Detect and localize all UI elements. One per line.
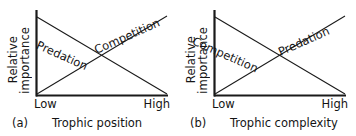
panel-a-x-tick-high: High — [144, 98, 170, 111]
panel-b: Relative importance Competition Predatio… — [178, 0, 356, 136]
panel-a-letter: (a) — [12, 116, 28, 130]
panel-a: Relative importance Predation Competitio… — [0, 0, 178, 136]
figure-two-panel-line-chart: Relative importance Predation Competitio… — [0, 0, 356, 136]
panel-a-x-tick-low: Low — [34, 98, 57, 111]
panel-b-x-axis-label: Trophic complexity — [230, 116, 338, 130]
panel-a-x-axis-label: Trophic position — [52, 116, 142, 130]
panel-b-letter: (b) — [190, 116, 206, 130]
panel-b-x-tick-high: High — [322, 98, 348, 111]
panel-b-x-tick-low: Low — [212, 98, 235, 111]
